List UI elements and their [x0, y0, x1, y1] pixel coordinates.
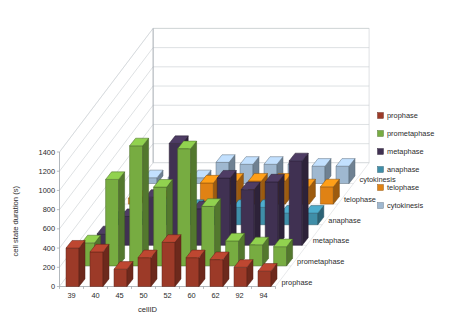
- y-tick-label: 0: [51, 282, 55, 291]
- bar-face-side: [254, 182, 260, 245]
- z-axis-label: prometaphase: [297, 257, 344, 266]
- x-tick-label: 92: [235, 291, 243, 300]
- bar-face-front: [66, 248, 79, 286]
- y-tick-label: 600: [43, 224, 55, 233]
- z-axis-label: telophase: [344, 195, 376, 204]
- bar-face-front: [289, 161, 302, 246]
- x-tick-label: 45: [115, 291, 123, 300]
- bar[interactable]: [90, 244, 109, 286]
- legend-swatch: [378, 113, 384, 119]
- bar-face-front: [162, 242, 175, 286]
- legend: prophaseprometaphasemetaphaseanaphasetel…: [378, 111, 435, 210]
- legend-swatch: [378, 167, 384, 173]
- bar-face-front: [234, 267, 247, 286]
- bar-face-side: [278, 174, 284, 245]
- legend-item[interactable]: telophase: [378, 183, 420, 192]
- bar[interactable]: [66, 240, 85, 286]
- y-tick-label: 200: [43, 263, 55, 272]
- legend-item[interactable]: anaphase: [378, 165, 420, 174]
- legend-item[interactable]: prometaphase: [378, 129, 435, 138]
- bar-face-side: [143, 138, 149, 266]
- x-axis-title: cellID: [138, 305, 158, 314]
- x-tick-label: 62: [211, 291, 219, 300]
- bar-face-front: [90, 252, 103, 287]
- bar[interactable]: [265, 174, 284, 245]
- z-axis-label: metaphase: [313, 236, 350, 245]
- legend-swatch: [378, 131, 384, 137]
- chart-container: 0200400600800100012001400 39404550526062…: [0, 0, 462, 327]
- x-tick-label: 50: [139, 291, 147, 300]
- bar-face-side: [119, 172, 125, 266]
- y-axis-ticks: 0200400600800100012001400: [39, 148, 60, 292]
- legend-swatch: [378, 203, 384, 209]
- bar-face-side: [79, 240, 85, 286]
- legend-item[interactable]: prophase: [378, 111, 418, 120]
- x-tick-label: 94: [259, 291, 267, 300]
- legend-label: cytokinesis: [387, 201, 423, 210]
- x-tick-label: 52: [163, 291, 171, 300]
- legend-label: telophase: [387, 183, 419, 192]
- bar-face-front: [138, 258, 151, 287]
- bar-face-side: [191, 141, 197, 266]
- bar-face-front: [130, 146, 143, 266]
- legend-label: prometaphase: [387, 129, 434, 138]
- bar[interactable]: [210, 252, 229, 287]
- legend-item[interactable]: cytokinesis: [378, 201, 424, 210]
- legend-label: prophase: [387, 111, 418, 120]
- bar-face-front: [274, 247, 287, 266]
- bar-face-front: [114, 269, 127, 286]
- bar[interactable]: [114, 262, 133, 287]
- x-tick-label: 60: [187, 291, 195, 300]
- bar[interactable]: [138, 250, 157, 286]
- y-tick-label: 1000: [39, 186, 55, 195]
- z-axis-label: anaphase: [328, 216, 360, 225]
- bar-face-side: [175, 235, 181, 287]
- x-tick-label: 40: [91, 291, 99, 300]
- bar[interactable]: [162, 235, 181, 287]
- y-tick-label: 400: [43, 244, 55, 253]
- y-tick-label: 1200: [39, 167, 55, 176]
- legend-label: metaphase: [387, 147, 424, 156]
- bar[interactable]: [130, 138, 149, 266]
- bar[interactable]: [320, 179, 339, 204]
- bar-face-front: [210, 260, 223, 287]
- legend-label: anaphase: [387, 165, 419, 174]
- bar-face-front: [320, 187, 333, 204]
- z-axis-label: prophase: [282, 278, 313, 287]
- bar[interactable]: [274, 239, 293, 266]
- bar[interactable]: [289, 153, 308, 245]
- bar-face-front: [265, 182, 278, 245]
- bar-chart-3d: 0200400600800100012001400 39404550526062…: [0, 0, 462, 327]
- x-axis-categories: 394045505260629294: [60, 287, 276, 301]
- bar-face-front: [186, 258, 199, 287]
- y-axis-title: cell state duration (s): [11, 186, 20, 257]
- y-tick-label: 800: [43, 205, 55, 214]
- legend-swatch: [378, 149, 384, 155]
- bar-face-side: [302, 153, 308, 245]
- x-tick-label: 39: [67, 291, 75, 300]
- bar[interactable]: [186, 250, 205, 286]
- bar[interactable]: [234, 260, 253, 287]
- legend-swatch: [378, 185, 384, 191]
- legend-item[interactable]: metaphase: [378, 147, 424, 156]
- bar-face-front: [258, 271, 271, 286]
- y-tick-label: 1400: [39, 148, 55, 157]
